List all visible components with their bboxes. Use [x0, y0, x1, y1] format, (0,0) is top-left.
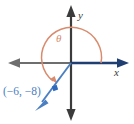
- y-axis-label: y: [77, 9, 83, 21]
- negative-x-axis: [8, 58, 71, 68]
- point-marker: [52, 85, 58, 91]
- positive-x-axis-initial-side: [71, 58, 129, 68]
- point-coordinate-label: (−6, −8): [3, 85, 41, 98]
- angle-diagram-figure: x y θ (−6, −8): [0, 0, 134, 124]
- x-axis-label: x: [113, 66, 119, 78]
- theta-label: θ: [56, 32, 62, 44]
